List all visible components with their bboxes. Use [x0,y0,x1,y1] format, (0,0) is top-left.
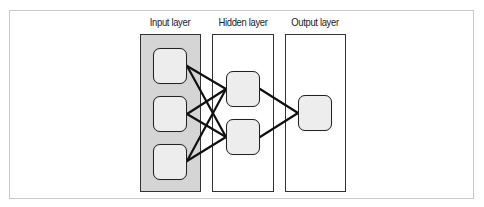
input-node-1 [153,48,187,84]
hidden-layer-label: Hidden layer [208,15,279,29]
input-layer-label: Input layer [136,15,205,29]
output-layer-label: Output layer [281,15,350,29]
input-node-2 [153,96,187,132]
hidden-node-1 [226,71,260,107]
hidden-layer-box [212,34,274,192]
hidden-node-2 [226,119,260,155]
input-node-3 [153,144,187,180]
output-node-1 [298,95,332,131]
